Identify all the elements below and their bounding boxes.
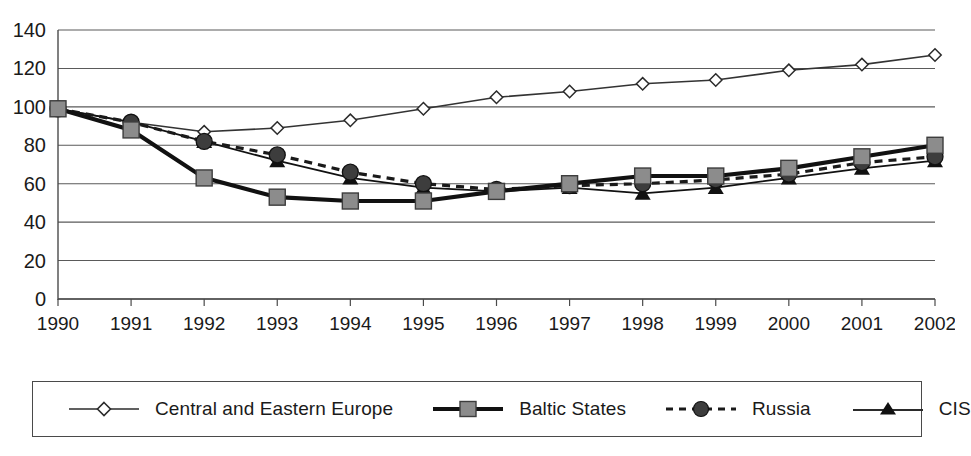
y-axis-tick-label: 60 — [24, 173, 46, 195]
legend-item-baltic-states[interactable]: Baltic States — [431, 382, 626, 436]
marker-central-and-eastern-europe — [344, 114, 356, 126]
marker-baltic-states — [854, 149, 870, 165]
x-axis-tick-label: 2002 — [914, 313, 955, 334]
marker-baltic-states — [489, 183, 505, 199]
x-axis-tick-label: 1997 — [548, 313, 590, 334]
marker-russia — [196, 133, 212, 149]
gray-square-thick-line-swatch — [431, 398, 505, 420]
x-axis-tick-label: 1992 — [183, 313, 225, 334]
marker-central-and-eastern-europe — [636, 78, 648, 90]
series-line-russia — [58, 109, 935, 190]
legend-label: Russia — [752, 398, 811, 420]
marker-central-and-eastern-europe — [417, 103, 429, 115]
marker-baltic-states — [50, 101, 66, 117]
x-axis-tick-label: 1994 — [329, 313, 372, 334]
marker-russia — [269, 147, 285, 163]
diamond-open-line-swatch — [67, 399, 141, 419]
x-axis-tick-label: 1990 — [37, 313, 79, 334]
y-axis-tick-label: 80 — [24, 134, 46, 156]
legend-label: CIS — [939, 398, 971, 420]
marker-baltic-states — [781, 160, 797, 176]
y-axis-tick-label: 0 — [35, 288, 46, 310]
legend-label: Central and Eastern Europe — [155, 398, 393, 420]
x-axis-tick-label: 1998 — [622, 313, 664, 334]
x-axis-tick-label: 1991 — [110, 313, 152, 334]
marker-baltic-states — [269, 189, 285, 205]
marker-baltic-states — [415, 193, 431, 209]
legend-item-central-and-eastern-europe[interactable]: Central and Eastern Europe — [67, 382, 393, 436]
chart-container: 0204060801001201401990199119921993199419… — [0, 0, 955, 356]
y-axis-tick-label: 120 — [13, 57, 46, 79]
marker-central-and-eastern-europe — [490, 91, 502, 103]
marker-baltic-states — [562, 176, 578, 192]
legend-item-russia[interactable]: Russia — [664, 382, 811, 436]
triangle-line-swatch — [851, 399, 925, 419]
marker-baltic-states — [123, 122, 139, 138]
marker-central-and-eastern-europe — [271, 122, 283, 134]
x-axis-tick-label: 1996 — [475, 313, 517, 334]
marker-baltic-states — [635, 168, 651, 184]
series-line-cis — [58, 109, 935, 194]
marker-russia — [342, 164, 358, 180]
marker-baltic-states — [196, 170, 212, 186]
marker-central-and-eastern-europe — [563, 85, 575, 97]
x-axis-tick-label: 1999 — [695, 313, 737, 334]
marker-baltic-states — [342, 193, 358, 209]
legend-label: Baltic States — [519, 398, 626, 420]
line-chart: 0204060801001201401990199119921993199419… — [0, 0, 955, 356]
marker-central-and-eastern-europe — [783, 64, 795, 76]
marker-central-and-eastern-europe — [929, 49, 941, 61]
marker-baltic-states — [708, 168, 724, 184]
marker-russia — [415, 176, 431, 192]
y-axis-tick-label: 20 — [24, 250, 46, 272]
circle-dashed-line-swatch — [664, 399, 738, 419]
x-axis-tick-label: 2001 — [841, 313, 883, 334]
x-axis-tick-label: 2000 — [768, 313, 810, 334]
legend-item-cis[interactable]: CIS — [851, 382, 971, 436]
y-axis-tick-label: 100 — [13, 96, 46, 118]
marker-central-and-eastern-europe — [710, 74, 722, 86]
y-axis-tick-label: 40 — [24, 211, 46, 233]
x-axis-tick-label: 1993 — [256, 313, 298, 334]
y-axis-tick-label: 140 — [13, 19, 46, 41]
x-axis-tick-label: 1995 — [402, 313, 444, 334]
chart-legend: Central and Eastern Europe Baltic States… — [32, 381, 922, 437]
marker-baltic-states — [927, 137, 943, 153]
